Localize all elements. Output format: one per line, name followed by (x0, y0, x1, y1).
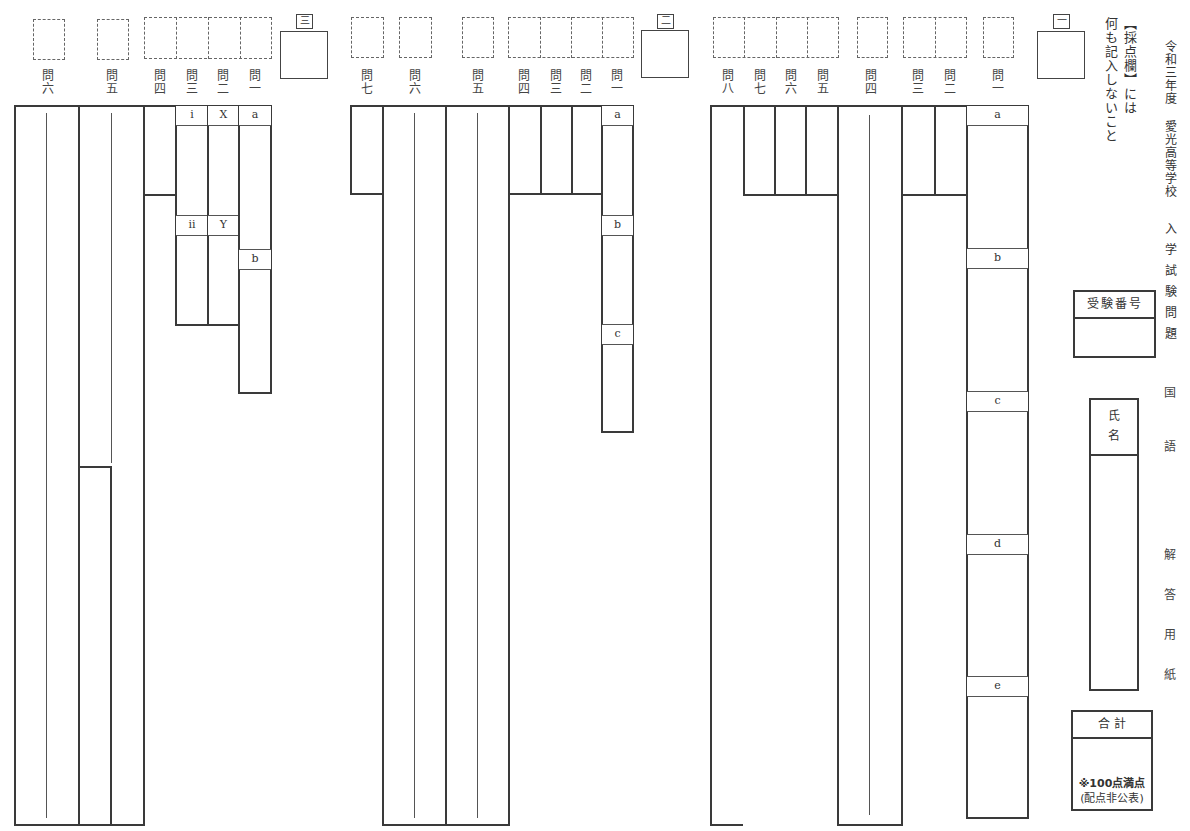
s3-q4-label: 問四 (150, 70, 170, 96)
total-score-box: 合 計 ※100点満点 (配点非公表) (1071, 710, 1153, 811)
s1-q8-answer[interactable] (710, 105, 745, 826)
s2-q5-center-line (477, 113, 478, 818)
s1-q1-label: 問一 (988, 70, 1008, 96)
s2-q1-answer[interactable] (601, 105, 634, 433)
score-dashed-q7 (351, 17, 384, 58)
s2-q1-part-b: b (602, 215, 633, 236)
score-dashed-q6 (33, 19, 65, 60)
title-sheet-1: 解 (1162, 545, 1178, 562)
s3-q2-part-x: X (208, 106, 239, 126)
s3-q1-part-b: b (239, 249, 271, 270)
s3-q5-lower-left (78, 466, 113, 826)
section-2-marker: 二 (657, 14, 674, 29)
notice-line1: 【採点欄】には (1120, 17, 1139, 115)
s3-q1-part-a: a (239, 106, 271, 126)
s2-q3-answer[interactable] (540, 105, 573, 195)
dashed-divider (744, 17, 745, 58)
title-exam: 入学試験問題 (1161, 222, 1178, 348)
s1-blank-area (743, 194, 839, 826)
total-note-2: (配点非公表) (1073, 789, 1151, 805)
dashed-divider (571, 17, 572, 58)
s1-q7-answer[interactable] (743, 105, 776, 196)
s1-q7-label: 問七 (750, 70, 770, 96)
title-sheet-2: 答 (1162, 585, 1178, 602)
section-2-score-box (641, 30, 689, 78)
dashed-divider (208, 17, 209, 59)
name-box[interactable]: 氏 名 (1089, 398, 1139, 691)
dashed-divider (240, 17, 241, 59)
s1-q1-part-a: a (967, 106, 1028, 126)
s3-q6-answer[interactable] (14, 105, 80, 826)
s2-q5-label: 問五 (468, 70, 488, 96)
s3-q1-label: 問一 (245, 70, 265, 96)
dashed-divider (935, 17, 936, 58)
s1-q1-answer[interactable] (966, 105, 1029, 819)
title-subject-1: 国 (1162, 383, 1178, 400)
s3-q3-part-ii: ii (176, 215, 208, 236)
s1-q1-part-b: b (967, 248, 1028, 269)
s1-q2-answer[interactable] (934, 105, 968, 196)
name-label: 氏 名 (1091, 400, 1137, 456)
s2-q4-label: 問四 (514, 70, 534, 96)
score-dashed-q4 (857, 17, 888, 58)
s1-q1-part-c: c (967, 391, 1028, 412)
dashed-divider (776, 17, 777, 58)
s1-q4-answer[interactable] (837, 105, 903, 826)
s3-q4-answer[interactable] (143, 105, 177, 196)
s2-q1-part-c: c (602, 324, 633, 345)
s3-q5-label: 問五 (102, 70, 122, 96)
s2-q6-label: 問六 (405, 70, 425, 96)
s2-q2-answer[interactable] (571, 105, 603, 195)
title-school: 愛光高等学校 (1161, 120, 1178, 198)
s1-q6-label: 問六 (781, 70, 801, 96)
s2-q2-label: 問二 (576, 70, 596, 96)
total-label: 合 計 (1073, 712, 1151, 739)
s2-q1-label: 問一 (607, 70, 627, 96)
title-year: 令和三年度 (1161, 40, 1178, 105)
score-dashed-q1 (983, 17, 1014, 58)
section-3-score-box (280, 31, 328, 79)
score-dashed-q6 (399, 17, 432, 58)
total-note-1: ※100点満点 (1073, 774, 1151, 790)
dashed-divider (540, 17, 541, 58)
s2-q6-center-line (414, 113, 415, 818)
dashed-divider (807, 17, 808, 58)
s3-q2-part-y: Y (208, 215, 239, 236)
score-dashed-q5 (97, 19, 129, 60)
section-1-marker: 一 (1053, 14, 1070, 29)
s3-q6-label: 問六 (38, 70, 58, 96)
s2-q7-answer[interactable] (350, 105, 384, 195)
s2-q1-part-a: a (602, 106, 633, 126)
s1-q5-answer[interactable] (805, 105, 839, 196)
s2-q7-label: 問七 (357, 70, 377, 96)
s3-q2-label: 問二 (213, 70, 233, 96)
s3-q5-answer-bottom[interactable] (110, 466, 145, 826)
s1-q5-label: 問五 (813, 70, 833, 96)
title-subject-2: 語 (1162, 437, 1178, 454)
title-sheet-4: 紙 (1162, 665, 1178, 682)
section-3-marker: 三 (296, 14, 313, 29)
s3-q3-part-i: i (176, 106, 208, 126)
exam-number-label: 受験番号 (1075, 292, 1154, 319)
s1-q4-center-line (869, 115, 870, 815)
s3-q6-center-line (46, 113, 47, 818)
notice-line2: 何も記入しないこと (1101, 17, 1120, 143)
s1-q6-answer[interactable] (774, 105, 807, 196)
dashed-divider (602, 17, 603, 58)
section-1-score-box (1037, 31, 1085, 79)
s2-q3-label: 問三 (546, 70, 566, 96)
score-dashed-q5 (462, 17, 494, 58)
s3-q3-label: 問三 (182, 70, 202, 96)
s1-q3-answer[interactable] (901, 105, 936, 196)
s1-q1-part-d: d (967, 534, 1028, 555)
s2-q4-answer[interactable] (508, 105, 542, 195)
s1-q3-label: 問三 (908, 70, 928, 96)
s1-q2-label: 問二 (940, 70, 960, 96)
dashed-divider (176, 17, 177, 59)
s1-q4-label: 問四 (861, 70, 881, 96)
title-sheet-3: 用 (1162, 625, 1178, 642)
s1-q8-label: 問八 (718, 70, 738, 96)
s1-q1-part-e: e (967, 676, 1028, 697)
s3-q5-center-line (111, 113, 112, 463)
exam-number-box[interactable]: 受験番号 (1073, 290, 1156, 358)
